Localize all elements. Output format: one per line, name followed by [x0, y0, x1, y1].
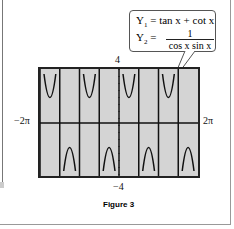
graph-plot	[40, 69, 198, 176]
xmax-label: 2π	[203, 115, 213, 126]
xmin-label: −2π	[14, 115, 30, 126]
ymax-label: 4	[115, 54, 120, 65]
calculator-screen	[38, 67, 200, 178]
ymin-label: −4	[113, 181, 124, 192]
figure-caption: Figure 3	[103, 200, 134, 209]
